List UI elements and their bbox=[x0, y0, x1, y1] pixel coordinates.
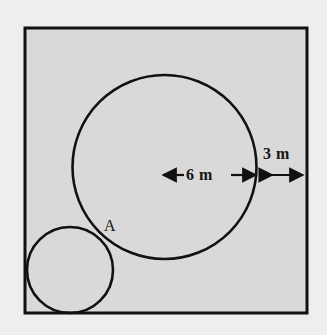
geometry-diagram bbox=[0, 0, 327, 335]
figure-canvas: 6 m 3 m A bbox=[0, 0, 327, 335]
point-label-a: A bbox=[104, 218, 116, 234]
dimension-label-3m: 3 m bbox=[263, 146, 290, 162]
dimension-label-6m: 6 m bbox=[186, 167, 213, 183]
outer-square bbox=[25, 28, 307, 313]
